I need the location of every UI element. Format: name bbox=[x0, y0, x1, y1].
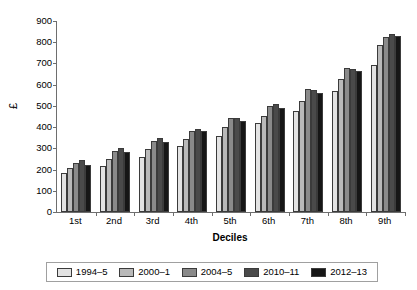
legend-item[interactable]: 1994–5 bbox=[57, 267, 108, 277]
bar-group bbox=[289, 21, 328, 212]
y-tick-label: 400 bbox=[36, 122, 52, 132]
legend-label: 1994–5 bbox=[76, 267, 108, 277]
y-tick-mark bbox=[53, 148, 57, 149]
bar bbox=[163, 142, 169, 212]
legend-label: 2012–13 bbox=[330, 267, 367, 277]
y-tick-label: 500 bbox=[36, 101, 52, 111]
bar-chart: £ 9008007006005004003002001000 1st2nd3rd… bbox=[0, 0, 417, 248]
bar bbox=[317, 93, 323, 212]
bar-group bbox=[328, 21, 367, 212]
bar-group bbox=[250, 21, 289, 212]
y-tick-label: 600 bbox=[36, 80, 52, 90]
legend-label: 2010–11 bbox=[263, 267, 299, 277]
bar bbox=[395, 36, 401, 212]
y-tick-label: 800 bbox=[36, 37, 52, 47]
bar bbox=[201, 131, 207, 212]
bar-group bbox=[366, 21, 405, 212]
y-tick-mark bbox=[53, 170, 57, 171]
y-tick-label: 200 bbox=[36, 165, 52, 175]
bar bbox=[240, 121, 246, 212]
y-tick-mark bbox=[53, 42, 57, 43]
bar-group bbox=[173, 21, 212, 212]
legend-swatch bbox=[119, 268, 134, 277]
y-tick-mark bbox=[53, 85, 57, 86]
legend-swatch bbox=[244, 268, 259, 277]
legend-label: 2000–1 bbox=[138, 267, 170, 277]
bar-group bbox=[212, 21, 251, 212]
y-tick-label: 700 bbox=[36, 58, 52, 68]
x-tick-label: 9th bbox=[365, 215, 404, 231]
x-tick-label: 6th bbox=[249, 215, 288, 231]
x-tick-label: 2nd bbox=[95, 215, 134, 231]
bar bbox=[124, 152, 130, 212]
bar bbox=[279, 108, 285, 212]
y-tick-label: 100 bbox=[36, 186, 52, 196]
x-tick-label: 1st bbox=[56, 215, 95, 231]
x-tick-label: 5th bbox=[211, 215, 250, 231]
legend-swatch bbox=[311, 268, 326, 277]
legend-label: 2004–5 bbox=[201, 267, 233, 277]
y-tick-mark bbox=[53, 212, 57, 213]
x-axis-tick-labels: 1st2nd3rd4th5th6th7th8th9th bbox=[56, 215, 404, 231]
bar bbox=[85, 165, 91, 212]
legend-item[interactable]: 2000–1 bbox=[119, 267, 170, 277]
x-tick-label: 4th bbox=[172, 215, 211, 231]
y-axis-tick-labels: 9008007006005004003002001000 bbox=[22, 15, 52, 220]
x-tick-label: 8th bbox=[327, 215, 366, 231]
chart-legend: 1994–52000–12004–52010–112012–13 bbox=[46, 262, 378, 282]
legend-item[interactable]: 2012–13 bbox=[311, 267, 367, 277]
legend-swatch bbox=[57, 268, 72, 277]
bar-groups bbox=[57, 21, 405, 212]
x-tick-label: 7th bbox=[288, 215, 327, 231]
y-tick-mark bbox=[53, 21, 57, 22]
legend-item[interactable]: 2004–5 bbox=[182, 267, 233, 277]
bar bbox=[356, 71, 362, 212]
x-tick-mark bbox=[405, 212, 406, 216]
x-axis-title: Deciles bbox=[56, 232, 404, 243]
y-tick-label: 900 bbox=[36, 16, 52, 26]
legend-swatch bbox=[182, 268, 197, 277]
y-tick-mark bbox=[53, 106, 57, 107]
y-axis-title: £ bbox=[7, 95, 19, 117]
bar-group bbox=[96, 21, 135, 212]
y-tick-mark bbox=[53, 127, 57, 128]
y-tick-label: 0 bbox=[47, 207, 52, 217]
bar-group bbox=[57, 21, 96, 212]
chart-page: £ 9008007006005004003002001000 1st2nd3rd… bbox=[0, 0, 417, 290]
y-tick-mark bbox=[53, 191, 57, 192]
legend-item[interactable]: 2010–11 bbox=[244, 267, 299, 277]
y-tick-label: 300 bbox=[36, 143, 52, 153]
plot-area bbox=[56, 21, 405, 213]
x-tick-label: 3rd bbox=[133, 215, 172, 231]
y-tick-mark bbox=[53, 63, 57, 64]
bar-group bbox=[134, 21, 173, 212]
